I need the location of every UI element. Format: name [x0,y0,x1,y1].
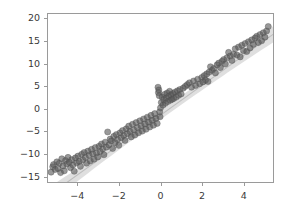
y-tick-mark [44,41,47,42]
plot-area [47,13,274,183]
y-tick-label: 5 [0,81,40,91]
scatter-point [178,91,184,97]
y-tick-mark [44,109,47,110]
y-tick-mark [44,177,47,178]
scatter-plot-figure: −15−10−505101520 −4−2024 [0,0,289,215]
y-tick-label: 20 [0,14,40,24]
x-tick-mark [77,183,78,186]
scatter-point [156,87,162,93]
scatter-point [212,70,218,76]
y-tick-label: −15 [0,172,40,182]
scatter-point [71,168,77,174]
y-tick-label: −5 [0,127,40,137]
plot-canvas [48,14,273,182]
scatter-point [122,137,128,143]
scatter-point [229,57,235,63]
y-tick-mark [44,154,47,155]
x-tick-label: 0 [157,191,163,201]
scatter-point [105,129,111,135]
y-tick-mark [44,131,47,132]
scatter-point [262,34,268,40]
y-tick-label: 0 [0,104,40,114]
scatter-point [222,61,228,67]
x-tick-mark [244,183,245,186]
y-tick-mark [44,86,47,87]
scatter-point [265,23,271,29]
scatter-points-group [48,23,271,175]
x-tick-mark [119,183,120,186]
y-tick-label: 10 [0,59,40,69]
scatter-point [157,114,163,120]
y-tick-label: 15 [0,36,40,46]
y-tick-label: −10 [0,149,40,159]
scatter-point [61,168,67,174]
scatter-point [237,54,243,60]
scatter-point [77,163,83,169]
x-tick-label: 4 [241,191,247,201]
y-tick-mark [44,64,47,65]
scatter-point [110,145,116,151]
scatter-point [154,120,160,126]
scatter-point [116,142,122,148]
scatter-point [205,78,211,84]
y-tick-mark [44,18,47,19]
x-tick-mark [202,183,203,186]
x-tick-label: 2 [199,191,205,201]
scatter-point [101,152,107,158]
x-tick-mark [161,183,162,186]
x-tick-label: −4 [70,191,84,201]
x-tick-label: −2 [112,191,126,201]
